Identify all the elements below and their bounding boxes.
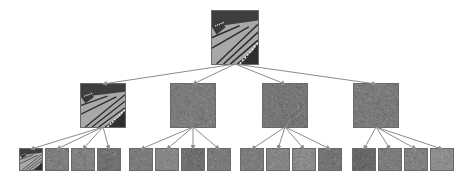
tree-edge-arrow (235, 64, 285, 84)
tree-edge-arrow (83, 127, 103, 149)
tree-edge-arrow (31, 127, 103, 149)
tree-edge-arrow (252, 127, 285, 149)
tree-edge-arrow (167, 127, 193, 149)
level1-node-2 (262, 83, 308, 128)
level2-node-10 (292, 148, 316, 171)
tree-edge-arrow (285, 127, 330, 149)
tree-edge-arrow (376, 127, 416, 149)
level2-node-8 (240, 148, 264, 171)
level2-node-7 (207, 148, 231, 171)
tree-edge-arrow (141, 127, 193, 149)
level2-node-14 (404, 148, 428, 171)
level2-node-3 (97, 148, 121, 171)
tree-edge-arrow (103, 127, 109, 149)
tree-edge-arrow (376, 127, 390, 149)
decomposition-tree-diagram (0, 0, 473, 183)
tree-edge-arrow (364, 127, 376, 149)
level2-node-9 (266, 148, 290, 171)
level1-node-3 (353, 83, 399, 128)
level2-node-15 (430, 148, 454, 171)
level2-node-5 (155, 148, 179, 171)
level2-node-12 (352, 148, 376, 171)
level2-node-6 (181, 148, 205, 171)
level2-node-2 (71, 148, 95, 171)
tree-edge-arrow (193, 127, 219, 149)
level2-node-0 (19, 148, 43, 171)
root-image-node (211, 10, 259, 65)
tree-edge-arrow (103, 64, 235, 84)
level1-node-0 (80, 83, 126, 128)
level2-node-11 (318, 148, 342, 171)
tree-edge-arrow (235, 64, 376, 84)
tree-edge-arrow (285, 127, 304, 149)
level2-node-1 (45, 148, 69, 171)
tree-edge-arrow (193, 64, 235, 84)
tree-edge-arrow (376, 127, 442, 149)
tree-edge-arrow (278, 127, 285, 149)
level1-node-1 (170, 83, 216, 128)
level2-node-13 (378, 148, 402, 171)
tree-edge-arrow (57, 127, 103, 149)
level2-node-4 (129, 148, 153, 171)
